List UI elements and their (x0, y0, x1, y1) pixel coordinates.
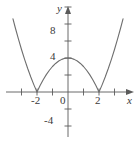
x-tick-label-2: 2 (95, 95, 101, 106)
x-tick-label-minus-2: -2 (31, 95, 40, 106)
y-tick-label-4: 4 (50, 51, 56, 62)
y-tick-label-8: 8 (50, 25, 56, 36)
x-axis-label: x (127, 95, 132, 106)
plot-canvas (0, 0, 139, 143)
graph-figure: 8 4 -4 0 -2 2 x y (0, 0, 139, 143)
y-tick-label-minus-4: -4 (44, 115, 53, 126)
origin-label-0: 0 (60, 95, 66, 106)
y-axis-label: y (57, 3, 62, 14)
